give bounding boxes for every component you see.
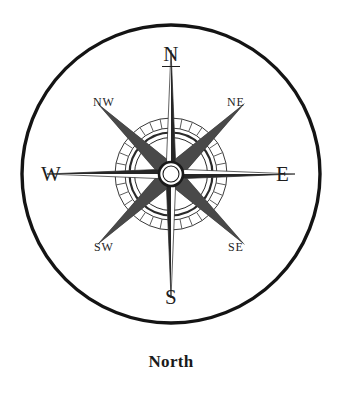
compass-tick [124,143,132,149]
compass-label-northwest: NW [93,96,115,108]
compass-tick [189,217,193,226]
compass-tick [209,143,217,149]
compass-label-northeast: NE [227,96,245,108]
compass-label-southwest: SW [94,241,114,253]
compass-label-east: E [276,164,289,185]
compass-figure: N S W E NW NE SW SE North [0,0,342,396]
compass-tick [214,192,223,196]
compass-label-north-text: N [162,44,180,67]
compass-tick [197,212,203,220]
compass-tick [140,212,146,220]
compass-tick [209,200,217,206]
figure-caption: North [0,352,342,372]
compass-tick [216,183,226,185]
compass-label-southeast: SE [228,241,244,253]
compass-tick [160,219,162,229]
compass-hub [159,162,183,186]
compass-label-north: N [0,44,342,67]
compass-tick [150,217,154,226]
compass-tick [180,119,182,129]
compass-tick [214,153,223,157]
compass-label-west: W [41,164,61,185]
compass-label-south: S [0,287,342,308]
compass-tick [150,122,154,131]
compass-tick [116,183,126,185]
compass-label-south-text: S [165,285,177,309]
compass-tick [180,219,182,229]
compass-tick [160,119,162,129]
compass-tick [189,122,193,131]
compass-tick [216,163,226,165]
compass-tick [116,163,126,165]
compass-tick [124,200,132,206]
compass-tick [140,127,146,135]
compass-tick [197,127,203,135]
compass-tick [119,192,128,196]
compass-tick [119,153,128,157]
